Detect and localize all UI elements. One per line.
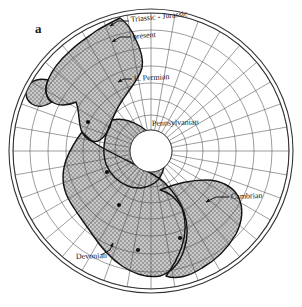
panel-label: a <box>35 21 42 37</box>
label-devonian: Devonian <box>76 251 107 261</box>
pole-present-marker <box>86 120 90 124</box>
pole-cambrian-marker <box>178 236 182 240</box>
label-l-permian: L. Permian <box>134 72 170 83</box>
label-cambrian: Cambrian <box>231 191 263 201</box>
pole-l-permian-marker <box>105 170 109 174</box>
label-pennsylvanian: Pennsylvanian <box>152 117 199 128</box>
polar-projection-map: Triassic - JurassicpresentL. PermianPenn… <box>0 0 302 307</box>
figure-panel: Triassic - JurassicpresentL. PermianPenn… <box>0 0 302 307</box>
pole-devonian-marker <box>136 248 140 252</box>
pole-pennsylvanian-marker <box>117 203 121 207</box>
polar-hole <box>130 130 172 172</box>
